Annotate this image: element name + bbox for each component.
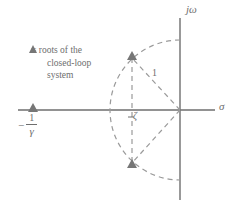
pole-fraction: 1 γ — [26, 113, 37, 137]
legend-line-1: roots of the — [39, 45, 82, 55]
root-marker-lower — [127, 159, 137, 168]
radius-line-upper-dashed — [132, 58, 180, 110]
legend-line-2: closed-loop — [47, 57, 137, 70]
radius-label: 1 — [152, 68, 157, 78]
real-pole-label: − 1 γ — [18, 113, 37, 137]
radius-line-lower-dashed — [132, 110, 180, 163]
legend-line-3: system — [47, 69, 137, 82]
pole-numerator: 1 — [27, 113, 36, 124]
root-marker-real-axis — [28, 103, 38, 112]
real-axis-label: σ — [219, 101, 224, 112]
pole-denominator: γ — [28, 125, 36, 137]
damping-angle-label: ζ — [133, 111, 137, 121]
pole-minus-sign: − — [18, 119, 24, 131]
triangle-marker-icon — [29, 45, 37, 53]
imaginary-axis-label: jω — [186, 4, 197, 15]
legend: = roots of the closed-loop system — [29, 44, 137, 82]
root-locus-figure: jω σ 1 ζ − 1 γ = roots of the closed-loo… — [0, 0, 241, 211]
